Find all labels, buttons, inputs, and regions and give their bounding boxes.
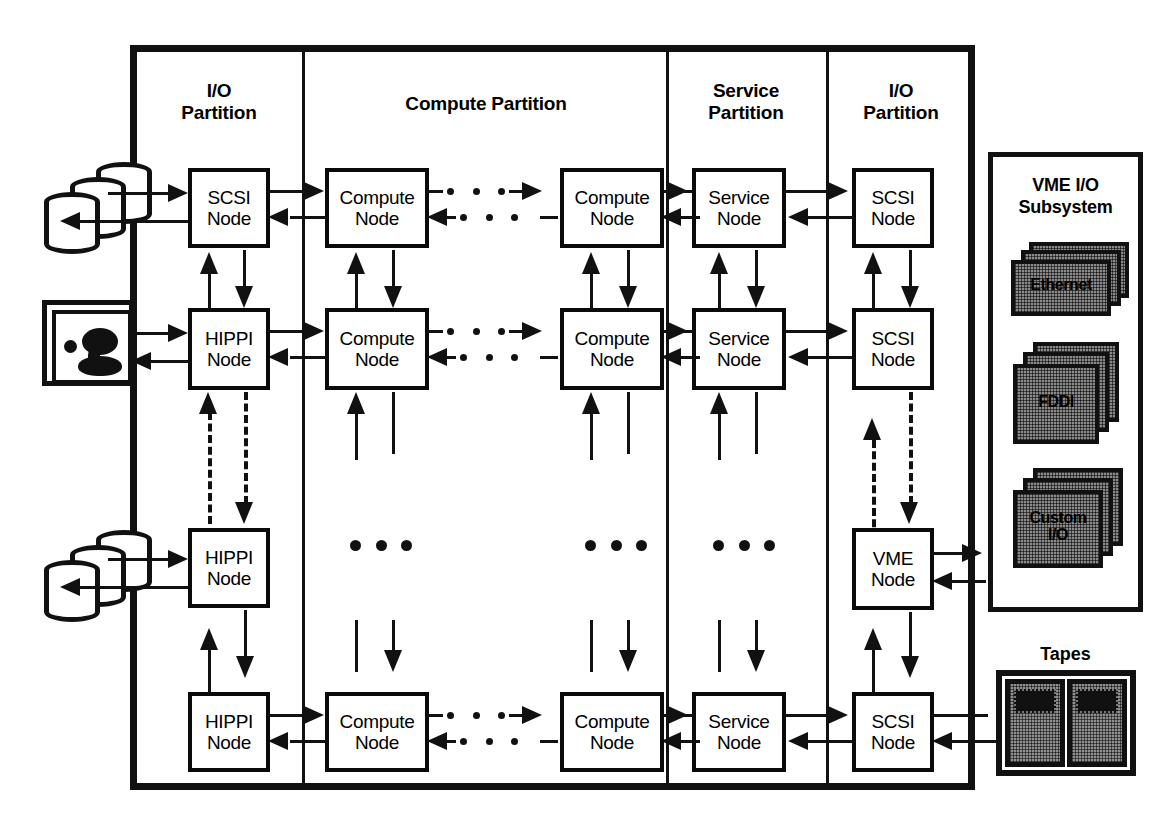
node-scsi-r4c5[interactable]: SCSI Node [852,692,934,772]
node-label-line1: Compute [340,711,415,732]
node-compute-r4c2[interactable]: Compute Node [325,692,429,772]
node-scsi-r1c5[interactable]: SCSI Node [852,168,934,248]
node-vme-r3c5[interactable]: VME Node [852,528,934,610]
node-hippi-r2c1[interactable]: HIPPI Node [188,308,270,390]
arrowhead-left [932,732,952,750]
node-compute-r2c3[interactable]: Compute Node [560,308,664,390]
node-scsi-r1c1[interactable]: SCSI Node [188,168,270,248]
diagram-canvas: I/O Partition Compute Partition Service … [0,0,1167,835]
node-compute-r2c2[interactable]: Compute Node [325,308,429,390]
node-label-line2: Node [207,349,251,370]
link-r1-4to5 [784,190,826,193]
arrowhead-up [582,392,600,414]
partition-label-io-left: I/O Partition [140,80,298,125]
link-v-r1r2-c2 [392,250,395,288]
link-v-r4r3-c2-b [392,620,395,652]
link-r1-3to2-stub [540,216,558,219]
vme-subsystem-title: VME I/O Subsystem [993,175,1138,218]
tape-slot [1076,689,1118,713]
link-r2-5to4 [808,356,854,359]
link-r4-2to3-stub [427,714,443,717]
node-label-line2: Node [871,569,915,590]
card-stack-fddi[interactable]: FDDI [1007,342,1127,450]
arrowhead-right [168,324,188,342]
node-label-line2: Node [590,732,634,753]
link-v-r3r2-c4 [718,412,721,460]
link-disk-to-hippi-r3 [108,558,170,561]
workstation-icon [42,300,134,386]
link-r1-4to3 [680,216,700,219]
node-hippi-r4c1[interactable]: HIPPI Node [188,692,270,772]
arrowhead-up [582,252,600,274]
link-v-r2r1-c4 [718,270,721,310]
arrowhead-up [864,252,882,274]
arrowhead-left [932,572,952,590]
node-label-line1: Service [708,187,769,208]
workstation-head [82,328,118,355]
node-label-line1: SCSI [871,187,914,208]
arrowhead-down [619,650,637,672]
arrowhead-right [668,182,688,200]
ellipsis-r4-top [447,711,505,720]
node-label-line1: SCSI [871,711,914,732]
tape-drive [1067,679,1127,767]
link-r4-3to2-stub [540,740,558,743]
link-r2-1to2 [268,330,308,333]
disk-array-bottom [40,528,150,623]
node-compute-r4c3[interactable]: Compute Node [560,692,664,772]
arrowhead-left [427,348,447,366]
link-subsystem-to-vme [952,580,986,583]
partition-divider-3 [826,52,829,783]
link-v-r2r1-c5 [872,270,875,310]
node-service-r2c4[interactable]: Service Node [692,308,786,390]
node-service-r1c4[interactable]: Service Node [692,168,786,248]
node-label-line2: Node [717,349,761,370]
tape-slot [1014,689,1056,713]
workstation-body [78,356,122,376]
card-stack-custom-io[interactable]: Custom I/O [1007,468,1127,576]
link-v-r4r3-c3-b [627,620,630,652]
card-front: Custom I/O [1013,490,1103,568]
node-compute-r1c3[interactable]: Compute Node [560,168,664,248]
partition-label-line1: I/O [140,80,298,102]
partition-divider-2 [666,52,669,783]
link-scsi-to-tapes [932,714,988,717]
card-stack-ethernet[interactable]: Ethernet [1007,242,1127,324]
link-v-r4r3-c4-b [755,620,758,652]
node-label-line1: VME [873,548,913,569]
vme-subsystem-title-line1: VME I/O [993,175,1138,197]
partition-label-line1: Service [670,80,822,102]
partition-label-line1: Compute Partition [310,93,662,115]
node-label-line1: HIPPI [205,711,253,732]
node-hippi-r3c1[interactable]: HIPPI Node [188,528,270,608]
partition-label-compute: Compute Partition [310,93,662,115]
link-v-r3r4-c4-a [718,620,721,672]
partition-divider-1 [302,52,305,783]
link-r2-3to2-stub [540,356,558,359]
arrowhead-left [268,208,288,226]
arrowhead-left [131,352,151,370]
link-v-r2r3-c2 [392,392,395,454]
node-scsi-r2c5[interactable]: SCSI Node [852,308,934,390]
arrowhead-up [199,392,217,414]
arrowhead-right [522,706,542,724]
tapes-enclosure[interactable] [996,670,1136,776]
arrowhead-right [168,550,188,568]
partition-label-line1: I/O [832,80,970,102]
link-r2-2to1 [290,356,328,359]
node-service-r4c4[interactable]: Service Node [692,692,786,772]
card-front: Ethernet [1011,260,1111,316]
card-label-ethernet: Ethernet [1015,277,1107,294]
link-hippi-to-disk-r3 [80,586,188,589]
arrowhead-down [384,286,402,308]
node-label-line2: Node [871,208,915,229]
arrowhead-up [200,252,218,274]
card-front: FDDI [1013,364,1099,444]
arrowhead-left [60,212,80,230]
arrowhead-down [235,286,253,308]
arrowhead-left [268,348,288,366]
node-compute-r1c2[interactable]: Compute Node [325,168,429,248]
arrowhead-left [788,732,808,750]
arrowhead-down [747,286,765,308]
arrowhead-down [236,656,254,678]
